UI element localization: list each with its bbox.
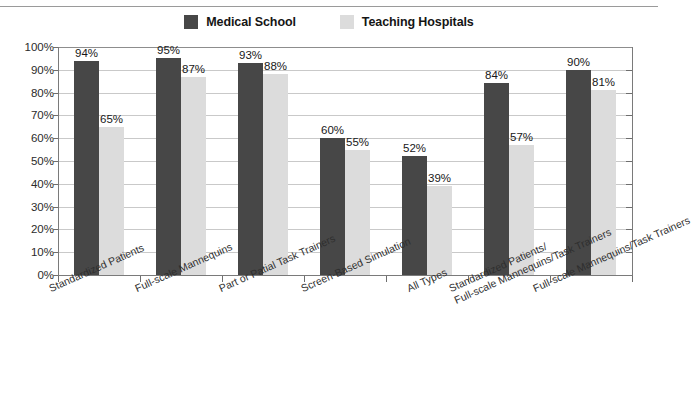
y-axis-tick-label: 40%	[2, 178, 54, 190]
bar-value-label: 90%	[567, 56, 590, 68]
y-axis-tick-label: 60%	[2, 132, 54, 144]
bar	[484, 83, 509, 275]
chart-legend: Medical School Teaching Hospitals	[0, 11, 658, 33]
bar-value-label: 39%	[428, 172, 451, 184]
bar-value-label: 81%	[592, 76, 615, 88]
y-axis-tick-label: 20%	[2, 223, 54, 235]
legend-swatch-medical-school	[184, 15, 198, 29]
bar-value-label: 95%	[157, 44, 180, 56]
bar	[263, 74, 288, 275]
y-axis-tick-label: 70%	[2, 109, 54, 121]
bar-value-label: 84%	[485, 69, 508, 81]
y-axis-tick-label: 80%	[2, 87, 54, 99]
bar	[156, 58, 181, 275]
y-axis-tick-label: 50%	[2, 155, 54, 167]
bar-value-label: 93%	[239, 49, 262, 61]
bar	[238, 63, 263, 275]
bar-value-label: 57%	[510, 131, 533, 143]
bar-value-label: 52%	[403, 142, 426, 154]
bar-value-label: 60%	[321, 124, 344, 136]
legend-entry-teaching-hospitals: Teaching Hospitals	[340, 15, 474, 29]
bar-value-label: 88%	[264, 60, 287, 72]
bar	[181, 77, 206, 275]
bar	[402, 156, 427, 275]
legend-entry-medical-school: Medical School	[184, 15, 296, 29]
y-axis-tick-label: 90%	[2, 64, 54, 76]
bar	[74, 61, 99, 275]
bar	[320, 138, 345, 275]
legend-label-teaching-hospitals: Teaching Hospitals	[362, 15, 474, 29]
bar-value-label: 94%	[75, 47, 98, 59]
bar	[427, 186, 452, 275]
legend-swatch-teaching-hospitals	[340, 15, 354, 29]
bar-value-label: 65%	[100, 113, 123, 125]
page-divider-rule	[0, 6, 658, 7]
y-axis-tick-label: 100%	[2, 41, 54, 53]
y-axis-tick-label: 10%	[2, 246, 54, 258]
bar-value-label: 87%	[182, 63, 205, 75]
x-axis-category-labels: Standardized PatientsFull-scale Mannequi…	[0, 275, 658, 393]
y-axis-tick-label: 30%	[2, 201, 54, 213]
legend-label-medical-school: Medical School	[206, 15, 296, 29]
bar-value-label: 55%	[346, 136, 369, 148]
